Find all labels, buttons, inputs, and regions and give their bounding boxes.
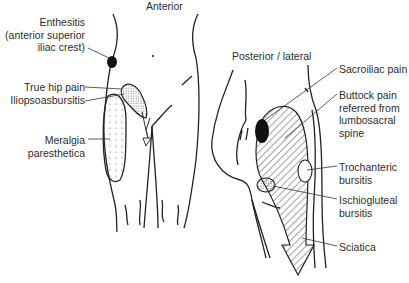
label-sciatica: Sciatica: [339, 241, 376, 254]
label-meralgia-paresthetica: Meralgia paresthetica: [0, 134, 85, 159]
label-enthesitis: Enthesitis (anterior superior iliac cres…: [0, 16, 85, 54]
label-trochanteric-bursitis: Trochanteric bursitis: [339, 161, 397, 186]
sacroiliac-marker: [255, 119, 269, 143]
label-sacroiliac-pain: Sacroiliac pain: [339, 63, 407, 76]
trochanteric-marker: [298, 160, 312, 182]
label-iliopsoas-bursitis: Iliopsoasbursitis: [0, 94, 85, 107]
anterior-view-title: Anterior: [146, 0, 183, 13]
label-ischiogluteal-bursitis: Ischiogluteal bursitis: [339, 194, 397, 219]
label-true-hip-pain: True hip pain: [0, 81, 85, 94]
ischiogluteal-marker: [257, 178, 275, 192]
meralgia-region: [103, 94, 126, 181]
posterior-view-title: Posterior / lateral: [232, 50, 311, 63]
label-buttock-pain: Buttock pain referred from lumbosacral s…: [339, 89, 400, 139]
